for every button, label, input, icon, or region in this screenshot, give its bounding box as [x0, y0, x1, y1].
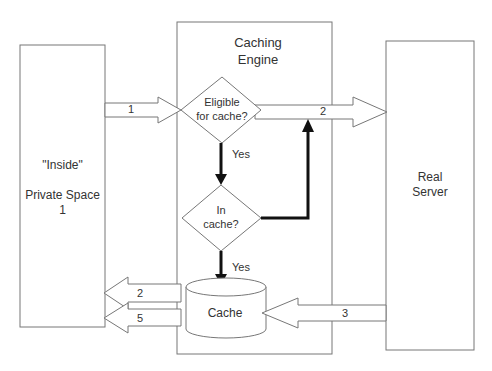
in-cache-line1: In	[190, 203, 252, 217]
in-cache-line2: cache?	[190, 217, 252, 231]
private-space-number: 1	[20, 203, 105, 218]
yes-label-2: Yes	[232, 260, 250, 275]
edge-label-2-back: 2	[134, 286, 146, 301]
edge-label-2-top: 2	[317, 104, 329, 119]
edge-label-3: 3	[339, 306, 351, 321]
eligible-line1: Eligible	[187, 95, 257, 109]
arrow-1	[105, 97, 181, 123]
eligible-label: Eligible for cache?	[187, 95, 257, 123]
in-cache-label: In cache?	[190, 203, 252, 231]
caching-engine-title: Caching Engine	[218, 34, 298, 68]
inside-label: "Inside"	[20, 158, 105, 173]
edge-label-1: 1	[125, 102, 137, 117]
edge-label-5-back: 5	[134, 311, 146, 326]
cache-cylinder-top	[186, 278, 266, 296]
eligible-line2: for cache?	[187, 109, 257, 123]
cache-label: Cache	[190, 306, 260, 321]
private-space-label: "Inside" Private Space 1	[20, 158, 105, 218]
engine-title-line2: Engine	[218, 51, 298, 68]
engine-title-line1: Caching	[218, 34, 298, 51]
yes-label-1: Yes	[232, 147, 250, 162]
server-line2: Server	[386, 185, 474, 200]
real-server-label: Real Server	[386, 170, 474, 200]
private-space-text: Private Space	[20, 188, 105, 203]
server-line1: Real	[386, 170, 474, 185]
